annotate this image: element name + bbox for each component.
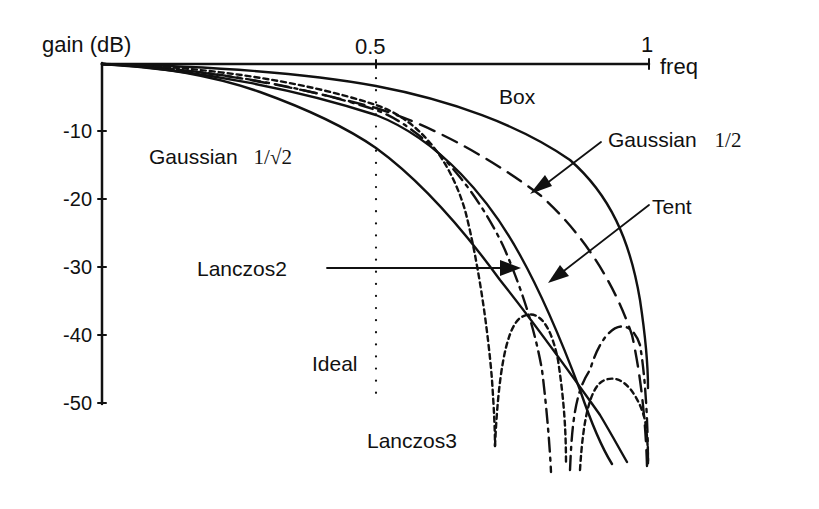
label-ideal: Ideal	[312, 353, 358, 374]
x-axis-label: freq	[660, 56, 698, 78]
label-gaussian-half: Gaussian 1/2	[608, 129, 741, 151]
y-tick-label: -10	[42, 121, 92, 141]
y-tick-label: -40	[42, 325, 92, 345]
series-box	[102, 64, 648, 388]
x-tick-label-one: 1	[641, 34, 653, 56]
y-tick-label: -50	[42, 393, 92, 413]
series-lanczos3	[102, 64, 495, 446]
label-gaussian-root2: Gaussian 1/√2	[149, 146, 292, 168]
y-tick-label: -30	[42, 257, 92, 277]
x-tick-label-half: 0.5	[355, 36, 386, 58]
label-gaussian-half-name: Gaussian	[608, 128, 697, 151]
series-lanczos3-lobe1	[495, 314, 566, 465]
label-gaussian-root2-value: 1/√2	[254, 145, 292, 169]
label-tent: Tent	[652, 196, 692, 217]
y-tick-label: -20	[42, 189, 92, 209]
label-lanczos2: Lanczos2	[197, 258, 287, 279]
arrow-tent	[556, 205, 649, 277]
series-lanczos3-lobe2	[580, 379, 648, 470]
label-gaussian-half-value: 1/2	[715, 128, 742, 152]
arrowhead-tent	[548, 265, 569, 283]
series-tent	[102, 64, 612, 464]
label-gaussian-root2-name: Gaussian	[149, 145, 238, 168]
y-axis-label: gain (dB)	[42, 34, 131, 56]
series-gaussian-half	[102, 64, 647, 466]
label-lanczos3: Lanczos3	[367, 430, 457, 451]
series-gaussian-root2	[102, 64, 627, 462]
label-box: Box	[499, 86, 535, 107]
arrowhead-gaussian-half	[530, 175, 552, 194]
